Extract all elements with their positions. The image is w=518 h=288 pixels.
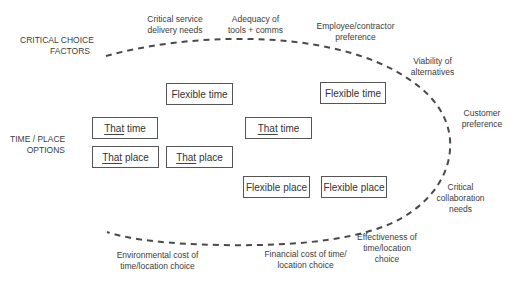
label-line: time/location — [352, 243, 422, 254]
label-line: choice — [352, 254, 422, 265]
factor-customer-preference: Customer preference — [452, 108, 512, 130]
label-line: preference — [308, 32, 403, 43]
label-line: Critical service — [135, 14, 215, 25]
diagram-canvas: CRITICAL CHOICE FACTORS TIME / PLACE OPT… — [0, 0, 518, 288]
critical-choice-factors-label: CRITICAL CHOICE FACTORS — [20, 35, 90, 57]
factor-critical-service-delivery: Critical service delivery needs — [135, 14, 215, 36]
box-text: place — [122, 152, 149, 163]
label-line: Effectiveness of — [352, 232, 422, 243]
label-line: delivery needs — [135, 25, 215, 36]
option-box-flexible-place-right: Flexible place — [321, 176, 387, 198]
label-line: Viability of — [400, 56, 465, 67]
factor-financial-cost: Financial cost of time/ location choice — [258, 249, 353, 271]
option-box-that-time-left: That time — [92, 117, 158, 139]
factor-viability-alternatives: Viability of alternatives — [400, 56, 465, 78]
option-box-that-place-middle: That place — [166, 146, 233, 168]
label-line: Customer — [452, 108, 512, 119]
option-box-flexible-time-right: Flexible time — [320, 82, 386, 104]
label-line: Adequacy of — [218, 14, 293, 25]
box-text: Flexible place — [323, 182, 384, 193]
underlined-word: That — [104, 123, 124, 134]
label-line: TIME / PLACE — [10, 134, 65, 145]
label-line: collaboration — [428, 193, 493, 204]
box-text: Flexible time — [171, 89, 227, 100]
box-text: place — [196, 152, 223, 163]
label-line: OPTIONS — [10, 145, 65, 156]
time-place-options-label: TIME / PLACE OPTIONS — [10, 134, 65, 156]
label-line: location choice — [258, 260, 353, 271]
label-line: FACTORS — [20, 46, 90, 57]
label-line: Critical — [428, 182, 493, 193]
underlined-word: That — [176, 152, 196, 163]
option-box-that-place-left: That place — [92, 146, 159, 168]
option-box-that-time-middle: That time — [245, 117, 312, 139]
label-line: Environmental cost of — [110, 250, 205, 261]
factor-effectiveness: Effectiveness of time/location choice — [352, 232, 422, 265]
label-line: CRITICAL CHOICE — [20, 35, 90, 46]
box-text: time — [278, 123, 300, 134]
label-line: alternatives — [400, 67, 465, 78]
label-line: tools + comms — [218, 25, 293, 36]
option-box-flexible-place-left: Flexible place — [243, 176, 310, 198]
label-line: time/location choice — [110, 261, 205, 272]
option-box-flexible-time-left: Flexible time — [166, 83, 233, 105]
box-text: Flexible time — [325, 88, 381, 99]
label-line: needs — [428, 204, 493, 215]
factor-critical-collaboration: Critical collaboration needs — [428, 182, 493, 215]
underlined-word: That — [102, 152, 122, 163]
box-text: time — [124, 123, 146, 134]
box-text: Flexible place — [246, 182, 307, 193]
underlined-word: That — [258, 123, 278, 134]
factor-environmental-cost: Environmental cost of time/location choi… — [110, 250, 205, 272]
factor-adequacy-tools: Adequacy of tools + comms — [218, 14, 293, 36]
label-line: Financial cost of time/ — [258, 249, 353, 260]
factor-employee-preference: Employee/contractor preference — [308, 21, 403, 43]
label-line: Employee/contractor — [308, 21, 403, 32]
label-line: preference — [452, 119, 512, 130]
